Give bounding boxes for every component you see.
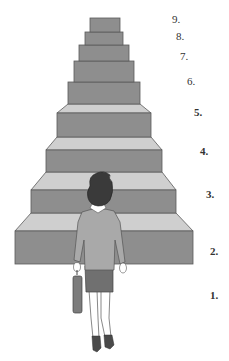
step-label-4: 4. xyxy=(200,146,208,157)
step-8 xyxy=(85,32,123,45)
step-label-1: 1. xyxy=(210,290,218,301)
staircase-diagram xyxy=(0,0,229,361)
step-4-top xyxy=(57,104,151,113)
step-label-7: 7. xyxy=(180,51,188,62)
step-label-6: 6. xyxy=(187,76,195,87)
step-4 xyxy=(57,104,151,137)
step-label-2: 2. xyxy=(210,246,218,257)
hair xyxy=(87,172,112,206)
step-label-9: 9. xyxy=(172,14,180,25)
step-5 xyxy=(68,82,140,104)
step-label-5: 5. xyxy=(194,107,202,118)
step-4-front xyxy=(57,113,151,137)
step-6 xyxy=(74,61,134,82)
shoes xyxy=(92,335,114,352)
step-label-3: 3. xyxy=(206,189,214,200)
step-9 xyxy=(90,18,120,32)
right-hand xyxy=(120,263,127,273)
step-3-top xyxy=(46,137,162,150)
legs xyxy=(89,290,111,338)
step-7 xyxy=(79,45,129,61)
step-3-front xyxy=(46,150,162,172)
briefcase xyxy=(73,270,82,313)
step-3 xyxy=(46,137,162,172)
step-label-8: 8. xyxy=(176,31,184,42)
